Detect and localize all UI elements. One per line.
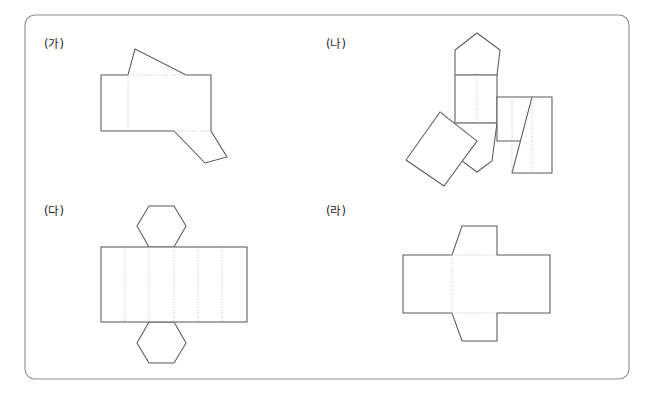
net-label-na: (나) [326,37,346,51]
net-figure-da: (다) [44,204,247,363]
net-label-da: (다) [44,204,64,218]
net-figure-na: (나) [326,33,552,186]
nets-worksheet-panel: (가) (나) [0,0,649,394]
net-ga-outline [101,49,227,163]
net-da-bottom-hexagon [137,322,186,363]
net-na-top-pentagon [455,33,500,75]
figure-canvas: (가) (나) [0,0,649,394]
net-da-top-hexagon [137,206,186,247]
net-ra-outline [403,226,550,341]
net-figure-ga: (가) [44,37,227,163]
net-label-ra: (라) [326,204,346,218]
net-na-center-square [455,75,497,123]
net-label-ga: (가) [44,37,64,51]
net-figure-ra: (라) [326,204,550,341]
panel-border [25,15,629,379]
